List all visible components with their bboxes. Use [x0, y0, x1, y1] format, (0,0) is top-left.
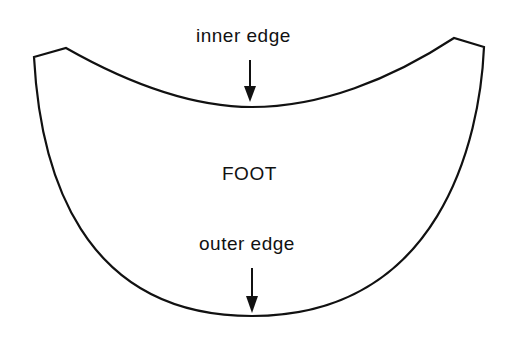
outer-edge-label: outer edge [199, 233, 295, 255]
diagram-canvas: inner edge FOOT outer edge [0, 0, 509, 341]
foot-label: FOOT [222, 163, 277, 185]
inner-edge-label: inner edge [196, 25, 291, 47]
inner-edge-arrow [244, 60, 256, 102]
outer-edge-arrow [246, 268, 258, 313]
